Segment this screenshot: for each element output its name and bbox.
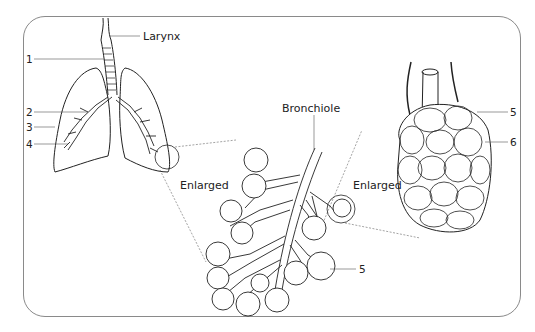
enlarged-region-lung [155, 145, 179, 169]
zoom-lines [160, 130, 420, 262]
enlarged-label-right: Enlarged [353, 180, 402, 191]
right-lung [120, 68, 170, 172]
marker-4: 4 [26, 139, 33, 150]
larynx-label: Larynx [143, 31, 180, 42]
alveolar-sacs [206, 148, 351, 316]
enlarged-label-left: Enlarged [180, 180, 229, 191]
respiratory-diagram [0, 0, 535, 332]
marker-6: 6 [510, 137, 517, 148]
alveoli-cluster [398, 62, 492, 232]
marker-3: 3 [26, 122, 33, 133]
marker-5-cluster: 5 [359, 264, 366, 275]
left-lung [54, 68, 111, 172]
marker-1: 1 [26, 54, 33, 65]
marker-5-alveoli: 5 [510, 107, 517, 118]
bronchi [64, 97, 158, 154]
marker-2: 2 [26, 107, 33, 118]
bronchiole-label: Bronchiole [282, 103, 340, 114]
trachea [101, 18, 117, 95]
